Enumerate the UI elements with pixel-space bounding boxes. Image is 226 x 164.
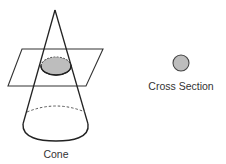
cross-section-label: Cross Section (148, 80, 214, 92)
section-ellipse-fill (42, 58, 71, 75)
diagram-canvas: Cone Cross Section (0, 0, 226, 164)
cone-base-back (27, 106, 85, 112)
cone-label: Cone (43, 148, 68, 160)
cone-base-front (23, 124, 88, 141)
cross-section-circle (173, 55, 189, 71)
